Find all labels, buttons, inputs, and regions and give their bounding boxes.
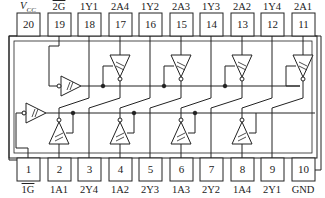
gnd-rail <box>315 36 321 170</box>
enable-2g-wiring <box>49 36 300 96</box>
pin-number-3: 3 <box>78 158 101 181</box>
pin-label-10: GND <box>283 184 323 196</box>
pin-number-12: 12 <box>261 13 284 36</box>
pin-number-20: 20 <box>17 13 40 36</box>
pin-number-5: 5 <box>139 158 162 181</box>
pin-number-1: 1 <box>17 158 40 181</box>
pin-number-10: 10 <box>292 158 315 181</box>
pin-number-2: 2 <box>48 158 71 181</box>
pin-label-11: 2A1 <box>283 1 323 13</box>
pin-number-18: 18 <box>78 13 101 36</box>
pin-number-7: 7 <box>200 158 223 181</box>
pin-number-14: 14 <box>200 13 223 36</box>
pin-number-6: 6 <box>170 158 193 181</box>
pin-number-11: 11 <box>292 13 315 36</box>
pin-number-17: 17 <box>109 13 132 36</box>
ic-pinout-diagram: VCC 2G 1Y1 2A4 1Y2 2A3 1Y3 2A2 1Y4 2A1 2… <box>0 0 325 198</box>
pin-number-19: 19 <box>48 13 71 36</box>
pin-number-16: 16 <box>139 13 162 36</box>
pin-number-8: 8 <box>231 158 254 181</box>
pin-number-9: 9 <box>261 158 284 181</box>
pin-number-15: 15 <box>170 13 193 36</box>
pin-number-4: 4 <box>109 158 132 181</box>
lower-buffers <box>49 36 272 158</box>
pin-number-13: 13 <box>231 13 254 36</box>
